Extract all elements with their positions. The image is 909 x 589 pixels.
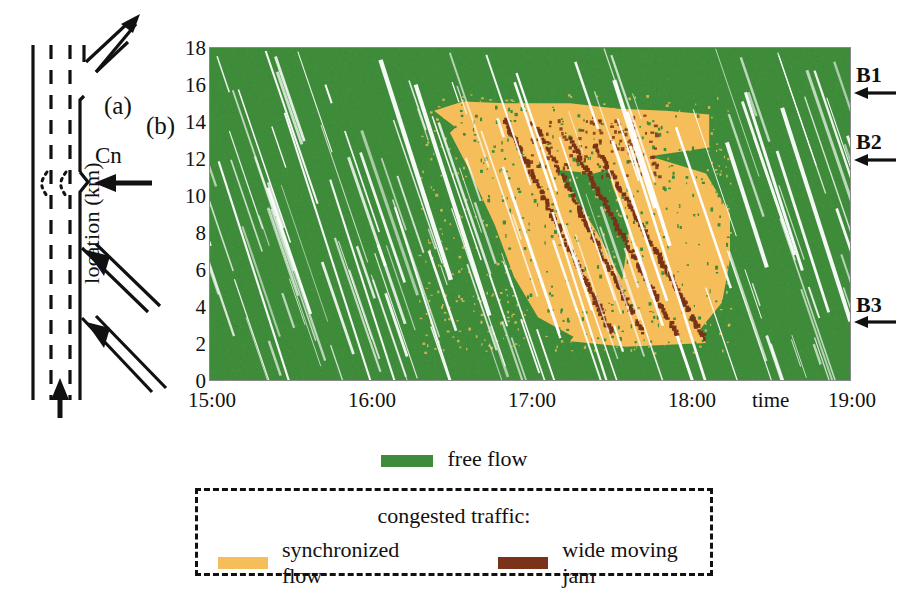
onramp1-edge-inner <box>96 244 160 306</box>
y-tick-label: 10 <box>172 186 206 207</box>
x-tick-label: 18:00 <box>647 388 737 413</box>
legend-entry-free-flow: free flow <box>0 446 909 472</box>
legend-label-free-flow: free flow <box>447 446 527 471</box>
offramp-arrowhead <box>121 14 140 33</box>
bottleneck-marker-b3-arrow <box>852 314 896 330</box>
legend-swatch-green <box>381 455 433 467</box>
x-axis-title: time <box>752 388 789 413</box>
legend-swatch-orange <box>218 557 268 569</box>
inflow-arrow <box>51 378 69 418</box>
y-tick-label: 8 <box>172 223 206 244</box>
y-tick-label: 2 <box>172 334 206 355</box>
merge-arc-2 <box>61 172 66 196</box>
y-axis-tick-labels: 18 16 14 12 10 8 6 4 2 0 <box>172 0 206 420</box>
chart-legend: free flow congested traffic: synchronize… <box>0 430 909 587</box>
y-axis-title: location (km) <box>79 123 105 323</box>
x-tick-label: 19:00 <box>807 388 897 413</box>
y-tick-label: 12 <box>172 149 206 170</box>
legend-congested-box: congested traffic: synchronized flow wid… <box>195 488 713 576</box>
legend-congested-title: congested traffic: <box>198 503 710 529</box>
traffic-spatiotemporal-plot <box>210 48 850 380</box>
legend-entry-wide-moving-jam: wide moving jam <box>498 537 710 589</box>
legend-swatch-brown <box>498 557 548 569</box>
x-tick-label: 15:00 <box>167 388 257 413</box>
traffic-heatmap-canvas <box>210 48 850 380</box>
legend-label-wide-moving-jam: wide moving jam <box>562 537 710 589</box>
y-tick-label: 14 <box>172 112 206 133</box>
onramp2-edge-inner <box>96 316 166 388</box>
x-tick-label: 16:00 <box>327 388 417 413</box>
legend-entry-synchronized-flow: synchronized flow <box>218 537 438 589</box>
y-tick-label: 6 <box>172 260 206 281</box>
x-tick-label: 17:00 <box>487 388 577 413</box>
merge-arc-1 <box>42 172 47 196</box>
y-tick-label: 4 <box>172 297 206 318</box>
y-tick-label: 18 <box>172 38 206 59</box>
panel-a-label: (a) <box>104 92 132 120</box>
bottleneck-marker-b2-arrow <box>852 152 896 168</box>
y-tick-label: 16 <box>172 75 206 96</box>
legend-congested-row: synchronized flow wide moving jam <box>198 537 710 589</box>
bottleneck-marker-b1-arrow <box>852 85 896 101</box>
panel-b-label: (b) <box>146 112 175 140</box>
legend-label-synchronized-flow: synchronized flow <box>282 537 439 589</box>
